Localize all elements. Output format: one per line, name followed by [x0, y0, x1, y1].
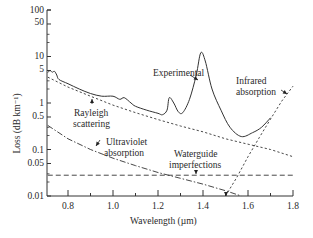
label-rayleigh-1: Rayleigh [74, 108, 108, 118]
y-tick-10: 10 [14, 51, 44, 61]
label-uv-1: Ultraviolet [106, 137, 147, 147]
y-axis-label: Loss (dB km⁻¹) [11, 84, 22, 164]
x-tick-1-8: 1.8 [278, 201, 308, 211]
label-waveguide-1: Waterguide [174, 149, 217, 159]
label-rayleigh-2: scattering [73, 119, 110, 129]
x-tick-1-6: 1.6 [233, 201, 263, 211]
label-experimental: Experimental [153, 68, 204, 78]
x-tick-1-0: 1.0 [98, 201, 128, 211]
label-infrared-1: Infrared [236, 76, 267, 86]
y-tick-0-01: 0.01 [14, 191, 44, 201]
label-waveguide-2: imperfections [169, 160, 221, 170]
label-infrared-2: absorption [236, 87, 276, 97]
x-tick-1-4: 1.4 [188, 201, 218, 211]
x-tick-1-2: 1.2 [143, 201, 173, 211]
x-axis-label: Wavelength (µm) [130, 216, 197, 226]
y-tick-50: 50 [14, 17, 44, 27]
x-tick-0-8: 0.8 [53, 201, 83, 211]
label-uv-2: absorption [104, 148, 144, 158]
y-tick-100: 100 [14, 5, 44, 15]
y-tick-5: 5 [14, 64, 44, 74]
